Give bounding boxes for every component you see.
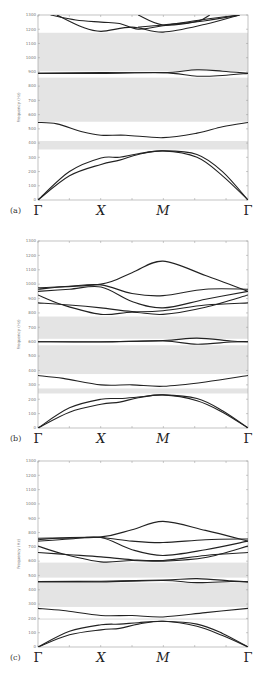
plot-frame xyxy=(38,241,248,428)
band-gap xyxy=(38,78,248,122)
y-tick-label: 300 xyxy=(28,601,36,606)
panel-a: 0100200300400500600700800900100011001200… xyxy=(0,0,265,225)
x-label-x: X xyxy=(96,204,105,217)
y-tick-label: 900 xyxy=(28,296,36,301)
y-tick-label: 900 xyxy=(28,69,36,74)
y-tick-label: 200 xyxy=(28,616,36,621)
x-label-gamma-end: Γ xyxy=(243,204,252,217)
band-gap xyxy=(38,141,248,150)
band-gap xyxy=(38,33,248,71)
dispersion-curve xyxy=(38,579,248,582)
y-tick-label: 1300 xyxy=(26,12,37,17)
dispersion-curve xyxy=(57,15,240,32)
plot-a: 0100200300400500600700800900100011001200… xyxy=(0,0,265,225)
y-tick-label: 400 xyxy=(28,368,36,373)
dispersion-curve xyxy=(38,338,248,342)
y-tick-label: 1000 xyxy=(26,55,37,60)
y-tick-label: 0 xyxy=(33,425,36,430)
x-label-x: X xyxy=(96,432,105,445)
y-tick-label: 100 xyxy=(28,183,36,188)
dispersion-curve xyxy=(38,284,248,295)
dispersion-curve xyxy=(38,341,248,344)
y-tick-label: 1300 xyxy=(26,238,37,243)
x-label-m: M xyxy=(156,651,169,664)
panel-tag-a: (a) xyxy=(10,207,21,215)
x-label-gamma-start: Γ xyxy=(33,651,42,664)
dispersion-curve xyxy=(38,580,248,582)
y-tick-label: 1200 xyxy=(26,27,37,32)
y-tick-label: 1000 xyxy=(26,281,37,286)
y-tick-label: 300 xyxy=(28,155,36,160)
dispersion-curve xyxy=(38,537,248,542)
y-tick-label: 500 xyxy=(28,126,36,131)
y-tick-label: 700 xyxy=(28,544,36,549)
dispersion-curve xyxy=(38,286,248,308)
band-gap xyxy=(38,345,248,374)
dispersion-curve xyxy=(38,395,248,428)
x-label-gamma-start: Γ xyxy=(33,432,42,445)
y-tick-label: 1200 xyxy=(26,473,37,478)
x-label-m: M xyxy=(156,432,169,445)
y-tick-label: 800 xyxy=(28,530,36,535)
dispersion-curve xyxy=(38,621,248,647)
y-tick-label: 300 xyxy=(28,382,36,387)
y-tick-label: 900 xyxy=(28,516,36,521)
y-tick-label: 1100 xyxy=(26,267,37,272)
y-axis-label: Frequency (Hz) xyxy=(16,319,21,350)
dispersion-curve xyxy=(38,621,248,647)
dispersion-curve xyxy=(38,608,248,617)
y-tick-label: 0 xyxy=(33,197,36,202)
y-tick-label: 800 xyxy=(28,83,36,88)
y-tick-label: 1100 xyxy=(26,41,37,46)
dispersion-curve xyxy=(38,261,248,291)
dispersion-curve xyxy=(38,122,248,137)
y-tick-label: 800 xyxy=(28,310,36,315)
y-tick-label: 0 xyxy=(33,644,36,649)
x-label-gamma-start: Γ xyxy=(33,204,42,217)
y-axis-label: Frequency (Hz) xyxy=(16,538,21,569)
y-tick-label: 1200 xyxy=(26,253,37,258)
band-gap xyxy=(38,388,248,393)
band-gap xyxy=(38,317,248,339)
y-tick-label: 500 xyxy=(28,573,36,578)
panel-tag-b: (b) xyxy=(10,435,21,443)
y-tick-label: 500 xyxy=(28,353,36,358)
dispersion-curve xyxy=(38,521,248,541)
panel-tag-c: (c) xyxy=(10,654,21,662)
band-gap xyxy=(38,563,248,578)
y-tick-label: 700 xyxy=(28,325,36,330)
plot-frame xyxy=(38,461,248,647)
x-label-m: M xyxy=(156,204,169,217)
dispersion-curve xyxy=(38,295,248,315)
y-tick-label: 400 xyxy=(28,140,36,145)
y-tick-label: 600 xyxy=(28,558,36,563)
dispersion-curve xyxy=(38,537,248,555)
dispersion-curve xyxy=(38,375,248,386)
y-tick-label: 1300 xyxy=(26,458,37,463)
y-tick-label: 100 xyxy=(28,630,36,635)
y-axis-label: Frequency (Hz) xyxy=(16,92,21,123)
y-tick-label: 1000 xyxy=(26,501,37,506)
y-tick-label: 600 xyxy=(28,112,36,117)
y-tick-label: 200 xyxy=(28,397,36,402)
dispersion-curve xyxy=(38,553,248,561)
dispersion-curve xyxy=(38,151,248,200)
x-label-gamma-end: Γ xyxy=(243,432,252,445)
y-tick-label: 700 xyxy=(28,98,36,103)
y-tick-label: 400 xyxy=(28,587,36,592)
band-gap xyxy=(38,618,248,619)
dispersion-curve xyxy=(51,15,240,29)
band-gap xyxy=(38,583,248,607)
dispersion-curve xyxy=(38,303,248,312)
y-tick-label: 100 xyxy=(28,411,36,416)
dispersion-curve xyxy=(38,395,248,428)
y-tick-label: 600 xyxy=(28,339,36,344)
x-label-gamma-end: Γ xyxy=(243,651,252,664)
y-tick-label: 1100 xyxy=(26,487,37,492)
y-tick-label: 200 xyxy=(28,169,36,174)
dispersion-curve xyxy=(38,546,248,562)
x-label-x: X xyxy=(96,651,105,664)
